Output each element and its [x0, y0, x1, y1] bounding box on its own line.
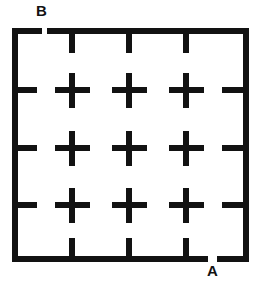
maze-diagram-figure: B A	[0, 0, 255, 287]
cross-vertical-arm	[69, 131, 75, 166]
left-wall-stub	[14, 202, 37, 208]
cross-vertical-arm	[126, 73, 132, 108]
exit-label-a: A	[207, 263, 218, 278]
border-wall-bottom-left-segment	[12, 256, 208, 262]
cross-vertical-arm	[126, 188, 132, 223]
right-wall-stub	[222, 87, 247, 93]
top-wall-stub	[69, 31, 75, 53]
cross-vertical-arm	[69, 188, 75, 223]
border-wall-top-right-segment	[47, 28, 249, 34]
right-wall-stub	[222, 202, 247, 208]
top-wall-stub	[183, 31, 189, 53]
bottom-wall-stub	[69, 238, 75, 260]
bottom-wall-stub	[183, 238, 189, 260]
left-wall-stub	[14, 87, 37, 93]
cross-vertical-arm	[69, 73, 75, 108]
top-wall-stub	[126, 31, 132, 53]
maze-drawing-canvas	[0, 0, 255, 287]
entrance-label-b: B	[36, 3, 47, 18]
cross-vertical-arm	[183, 131, 189, 166]
cross-vertical-arm	[126, 131, 132, 166]
bottom-wall-stub	[126, 238, 132, 260]
cross-vertical-arm	[183, 188, 189, 223]
right-wall-stub	[222, 145, 247, 151]
border-wall-bottom-right-segment	[217, 256, 249, 262]
cross-vertical-arm	[183, 73, 189, 108]
left-wall-stub	[14, 145, 37, 151]
